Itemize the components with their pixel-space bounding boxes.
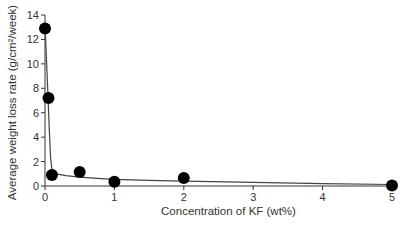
y-tick-label: 8: [33, 82, 39, 94]
data-point: [74, 166, 86, 178]
data-point: [46, 169, 58, 181]
data-point: [42, 92, 54, 104]
x-tick-label: 4: [320, 191, 326, 203]
x-tick-label: 1: [111, 191, 117, 203]
data-point: [108, 176, 120, 188]
data-point: [39, 22, 51, 34]
x-tick-label: 0: [42, 191, 48, 203]
x-tick-label: 2: [181, 191, 187, 203]
data-point: [178, 172, 190, 184]
y-tick-label: 14: [27, 9, 39, 21]
data-point: [386, 179, 398, 191]
fitted-curve: [45, 25, 392, 185]
y-tick-label: 6: [33, 107, 39, 119]
x-axis-title: Concentration of KF (wt%): [161, 205, 296, 217]
y-tick-label: 0: [33, 180, 39, 192]
chart: 02468101214 012345 Concentration of KF (…: [0, 0, 408, 225]
y-tick-label: 4: [33, 131, 39, 143]
x-tick-label: 3: [250, 191, 256, 203]
y-tick-label: 10: [27, 58, 39, 70]
y-axis-ticks: 02468101214: [27, 9, 45, 192]
x-tick-label: 5: [389, 191, 395, 203]
y-axis-title: Average weight loss rate (g/cm²/week): [6, 5, 18, 201]
y-tick-label: 2: [33, 156, 39, 168]
y-tick-label: 12: [27, 33, 39, 45]
data-points: [39, 22, 398, 191]
x-axis-ticks: 012345: [42, 186, 395, 203]
